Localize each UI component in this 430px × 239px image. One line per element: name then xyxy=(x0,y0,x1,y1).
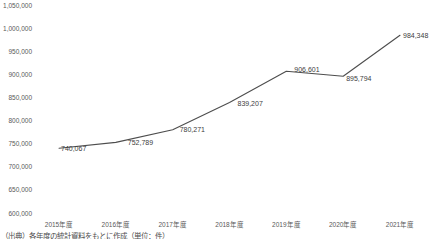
x-axis-tick-label: 2017年度 xyxy=(151,221,195,229)
x-axis-tick-label: 2016年度 xyxy=(94,221,138,229)
data-point-label: 906,601 xyxy=(294,66,319,73)
data-point-label: 752,789 xyxy=(128,139,153,146)
y-axis-tick-label: 800,000 xyxy=(0,117,32,124)
x-axis-tick-label: 2018年度 xyxy=(208,221,252,229)
y-axis-tick-label: 600,000 xyxy=(0,210,32,217)
line-chart: 1,050,0001,000,000950,000900,000850,0008… xyxy=(0,0,430,239)
y-axis-tick-label: 900,000 xyxy=(0,71,32,78)
x-axis-tick-label: 2020年度 xyxy=(321,221,365,229)
data-point-label: 740,067 xyxy=(61,145,86,152)
y-axis-tick-label: 1,000,000 xyxy=(0,25,32,32)
source-footnote: （出典）各年度の統計資料をもとに作成（単位：件） xyxy=(1,232,169,239)
y-axis-tick-label: 650,000 xyxy=(0,186,32,193)
data-point-label: 839,207 xyxy=(238,100,263,107)
x-axis-tick-label: 2015年度 xyxy=(37,221,81,229)
y-axis-tick-label: 850,000 xyxy=(0,94,32,101)
y-axis-tick-label: 950,000 xyxy=(0,48,32,55)
data-point-label: 984,348 xyxy=(403,32,428,39)
data-point-label: 780,271 xyxy=(180,126,205,133)
y-axis-tick-label: 1,050,000 xyxy=(0,2,32,9)
series-line xyxy=(59,35,400,148)
data-point-label: 895,794 xyxy=(346,75,371,82)
x-axis-tick-label: 2019年度 xyxy=(264,221,308,229)
trend-line-plot xyxy=(0,0,430,239)
y-axis-tick-label: 700,000 xyxy=(0,163,32,170)
x-axis-tick-label: 2021年度 xyxy=(378,221,422,229)
y-axis-tick-label: 750,000 xyxy=(0,140,32,147)
